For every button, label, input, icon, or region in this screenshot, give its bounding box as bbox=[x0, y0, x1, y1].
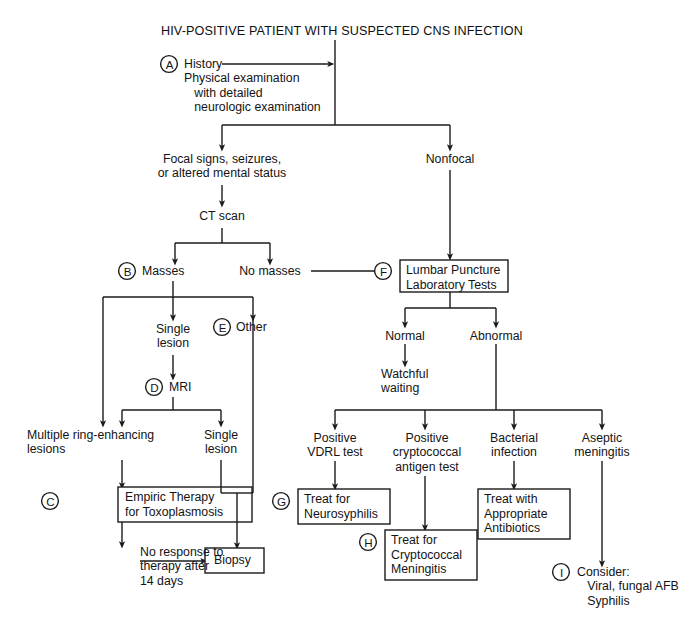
node-no-response: No response to therapy after 14 days bbox=[140, 545, 223, 588]
node-multiple-ring-lesions: Multiple ring-enhancing lesions bbox=[27, 428, 154, 457]
node-no-masses: No masses bbox=[239, 264, 301, 278]
marker-a-label: A bbox=[161, 56, 178, 73]
node-single-lesion-1: Single lesion bbox=[156, 322, 190, 351]
box-label-lumbar-puncture: Lumbar Puncture Laboratory Tests bbox=[406, 263, 500, 292]
node-abnormal: Abnormal bbox=[470, 329, 523, 343]
node-normal: Normal bbox=[385, 329, 425, 343]
node-positive-cryptococcal: Positive cryptococcal antigen test bbox=[393, 431, 461, 474]
connector-layer bbox=[0, 0, 684, 618]
node-history: History Physical examination with detail… bbox=[184, 57, 321, 115]
marker-h-label: H bbox=[360, 534, 377, 551]
box-label-treat-antibiotics: Treat with Appropriate Antibiotics bbox=[484, 492, 548, 536]
marker-e-label: E bbox=[214, 319, 231, 336]
node-watchful-waiting: Watchful waiting bbox=[381, 367, 428, 396]
marker-c-label: C bbox=[42, 493, 59, 510]
node-mri: MRI bbox=[169, 380, 192, 394]
node-nonfocal: Nonfocal bbox=[426, 152, 475, 166]
node-ct-scan: CT scan bbox=[199, 209, 245, 223]
box-label-treat-cryptococcal: Treat for Cryptococcal Meningitis bbox=[391, 533, 462, 577]
node-focal-signs: Focal signs, seizures, or altered mental… bbox=[158, 152, 287, 181]
node-consider: Consider: Viral, fungal AFB Syphilis bbox=[577, 565, 679, 608]
node-positive-vdrl: Positive VDRL test bbox=[307, 431, 363, 460]
marker-g-label: G bbox=[273, 493, 290, 510]
flowchart-canvas: HIV-POSITIVE PATIENT WITH SUSPECTED CNS … bbox=[0, 0, 684, 618]
marker-i-label: I bbox=[553, 564, 570, 581]
box-label-biopsy: Biopsy bbox=[214, 553, 251, 568]
marker-b-label: B bbox=[119, 263, 136, 280]
marker-f-label: F bbox=[375, 263, 392, 280]
node-other: Other bbox=[236, 320, 267, 334]
box-label-treat-neurosyphilis: Treat for Neurosyphilis bbox=[304, 492, 378, 521]
node-masses: Masses bbox=[142, 264, 184, 278]
node-bacterial-infection: Bacterial infection bbox=[490, 431, 538, 460]
node-aseptic-meningitis: Aseptic meningitis bbox=[574, 431, 629, 460]
marker-d-label: D bbox=[146, 379, 163, 396]
node-single-lesion-2: Single lesion bbox=[204, 428, 238, 457]
box-label-empiric-therapy: Empiric Therapy for Toxoplasmosis bbox=[125, 490, 223, 519]
